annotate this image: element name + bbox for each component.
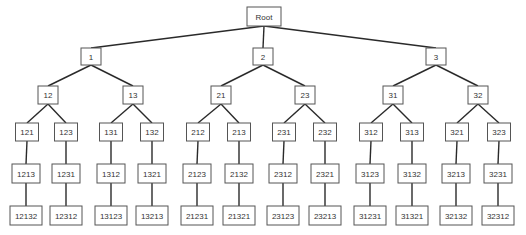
tree-node: 1 — [81, 48, 101, 65]
tree-node: 31321 — [396, 206, 428, 225]
node-label: 23213 — [314, 212, 337, 221]
node-label: 232 — [318, 128, 332, 137]
tree-edge — [393, 104, 412, 123]
node-label: 212 — [191, 128, 205, 137]
tree-edge — [197, 141, 198, 164]
tree-node: 212 — [187, 123, 210, 141]
tree-node: 12132 — [10, 206, 42, 225]
tree-node: 131 — [100, 123, 123, 141]
node-label: 1 — [89, 53, 94, 62]
node-label: 31231 — [359, 212, 382, 221]
node-label: 2312 — [274, 170, 292, 179]
tree-node: 3213 — [442, 164, 470, 183]
tree-edge — [371, 104, 393, 123]
tree-node: 1321 — [138, 164, 166, 183]
tree-edge — [263, 26, 264, 48]
node-label: 13213 — [141, 212, 164, 221]
node-label: 1321 — [143, 170, 161, 179]
node-label: 2 — [261, 53, 266, 62]
tree-node: 12 — [38, 86, 58, 104]
tree-edge — [456, 141, 457, 164]
tree-edge — [263, 65, 305, 86]
tree-edge — [26, 141, 27, 164]
tree-node: 1213 — [12, 164, 40, 183]
node-label: 21321 — [228, 212, 251, 221]
node-label: 32132 — [445, 212, 468, 221]
node-label: Root — [256, 13, 274, 22]
node-label: 3231 — [489, 170, 507, 179]
node-label: 13123 — [100, 212, 123, 221]
node-label: 23 — [301, 91, 310, 100]
tree-edge — [198, 104, 221, 123]
tree-node: 313 — [401, 123, 424, 141]
tree-node: 2123 — [183, 164, 211, 183]
tree-edge — [48, 104, 66, 123]
tree-edge — [48, 65, 91, 86]
tree-node: 121 — [16, 123, 39, 141]
tree-node: 13 — [123, 86, 143, 104]
node-label: 32 — [474, 91, 483, 100]
tree-edge — [370, 141, 371, 164]
node-label: 12312 — [55, 212, 78, 221]
tree-node: 32 — [468, 86, 488, 104]
tree-node: 32312 — [482, 206, 514, 225]
node-label: 12 — [44, 91, 53, 100]
tree-edge — [498, 141, 499, 164]
tree-edge — [91, 65, 133, 86]
tree-edge — [133, 104, 152, 123]
tree-edge — [283, 141, 284, 164]
node-label: 21 — [217, 91, 226, 100]
tree-node: 21321 — [223, 206, 255, 225]
tree-node: 323 — [488, 123, 511, 141]
tree-node: 31231 — [354, 206, 386, 225]
tree-node: 1231 — [52, 164, 80, 183]
node-label: 313 — [405, 128, 419, 137]
node-label: 1231 — [57, 170, 75, 179]
tree-node: 132 — [141, 123, 164, 141]
tree-node: 31 — [383, 86, 403, 104]
node-label: 2132 — [230, 170, 248, 179]
tree-node: 321 — [446, 123, 469, 141]
node-label: 1213 — [17, 170, 35, 179]
node-label: 132 — [145, 128, 159, 137]
tree-nodes: Root123121321233132121123131132212213231… — [10, 7, 514, 225]
tree-node: 3132 — [398, 164, 426, 183]
tree-node: 21 — [211, 86, 231, 104]
node-label: 231 — [277, 128, 291, 137]
node-label: 13 — [129, 91, 138, 100]
tree-node: 2312 — [269, 164, 297, 183]
node-label: 21231 — [186, 212, 209, 221]
tree-node: 23 — [295, 86, 315, 104]
tree-edge — [436, 65, 478, 86]
tree-edge — [111, 104, 133, 123]
tree-node: 312 — [360, 123, 383, 141]
tree-node: 213 — [228, 123, 251, 141]
node-label: 12132 — [15, 212, 38, 221]
tree-edge — [221, 65, 263, 86]
node-label: 3123 — [361, 170, 379, 179]
tree-edge — [457, 104, 478, 123]
node-label: 321 — [450, 128, 464, 137]
tree-node: 13213 — [136, 206, 168, 225]
tree-node: 32132 — [440, 206, 472, 225]
node-label: 2321 — [316, 170, 334, 179]
tree-edge — [478, 104, 499, 123]
tree-edge — [91, 26, 264, 48]
tree-edge — [264, 26, 436, 48]
tree-node: 232 — [314, 123, 337, 141]
node-label: 123 — [59, 128, 73, 137]
node-label: 323 — [492, 128, 506, 137]
tree-node: 21231 — [181, 206, 213, 225]
tree-edge — [393, 65, 436, 86]
node-label: 3 — [434, 53, 439, 62]
tree-node: 2132 — [225, 164, 253, 183]
tree-edge — [284, 104, 305, 123]
tree-node: 23213 — [309, 206, 341, 225]
node-label: 31 — [389, 91, 398, 100]
node-label: 121 — [20, 128, 34, 137]
tree-node: 2 — [253, 48, 273, 65]
node-label: 1312 — [102, 170, 120, 179]
tree-node: 2321 — [311, 164, 339, 183]
tree-edge — [305, 104, 325, 123]
node-label: 312 — [364, 128, 378, 137]
